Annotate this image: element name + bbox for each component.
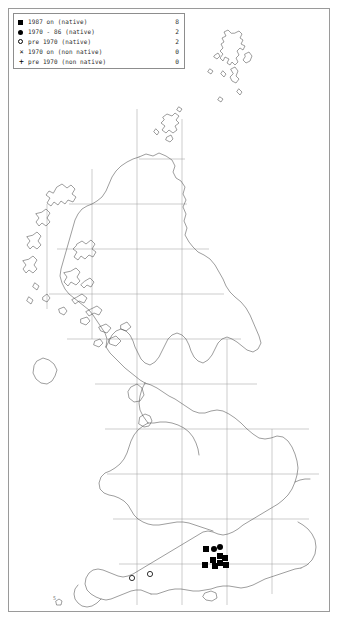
cross-x-icon: ×	[17, 47, 28, 57]
legend-label: pre 1970 (non native)	[28, 57, 154, 67]
legend-label: 1970 on (non native)	[28, 47, 154, 57]
distribution-map: 5	[9, 9, 331, 613]
map-frame: 5 1987 on (native) 8 1970 - 86 (native) …	[8, 8, 330, 612]
legend-row-pre-1970-non-native: + pre 1970 (non native) 0	[14, 57, 184, 67]
legend-row-pre-1970-native: pre 1970 (native) 2	[14, 37, 184, 47]
marker-group-1970-86-native	[211, 544, 223, 552]
legend-row-1970-86-native: 1970 - 86 (native) 2	[14, 27, 184, 37]
filled-square-icon	[17, 17, 28, 27]
open-circle-icon	[17, 37, 28, 47]
scilly-marker-label: 5	[53, 595, 56, 601]
legend-count: 0	[159, 47, 184, 57]
coastline-england-wales	[74, 383, 316, 607]
coastline-shetland	[208, 30, 252, 102]
legend-count: 8	[159, 17, 184, 27]
legend-count: 2	[159, 27, 184, 37]
legend-label: 1970 - 86 (native)	[28, 27, 154, 37]
legend-label: 1987 on (native)	[28, 17, 154, 27]
legend-count: 2	[159, 37, 184, 47]
coastline-isle-of-man	[128, 384, 144, 402]
data-markers	[129, 544, 229, 581]
coastline-inner-hebrides	[59, 240, 131, 347]
filled-circle-icon	[17, 27, 28, 37]
map-legend: 1987 on (native) 8 1970 - 86 (native) 2 …	[13, 13, 185, 69]
map-graticule	[47, 109, 319, 605]
coastline-scilly	[56, 599, 62, 605]
legend-row-1970-on-non-native: × 1970 on (non native) 0	[14, 47, 184, 57]
coastline-orkney	[154, 107, 182, 142]
coastline-scotland	[60, 153, 261, 383]
coastline-northern-ireland	[33, 358, 57, 384]
plus-icon: +	[17, 57, 28, 67]
marker-group-pre-1970-native	[129, 571, 152, 580]
legend-row-1987-on-native: 1987 on (native) 8	[14, 17, 184, 27]
legend-count: 0	[159, 57, 184, 67]
legend-label: pre 1970 (native)	[28, 37, 154, 47]
